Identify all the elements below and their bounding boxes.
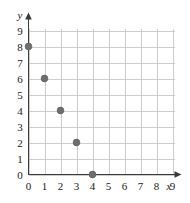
x-tick-label: 2 (58, 180, 64, 192)
x-tick-label: 5 (106, 180, 112, 192)
y-tick-label: 3 (17, 121, 23, 133)
y-axis-arrowhead (25, 13, 32, 20)
horizontal-gridlines (29, 31, 175, 175)
x-axis-tick-labels: 0123456789 (26, 180, 176, 192)
y-tick-label: 0 (17, 169, 23, 181)
x-axis-arrowhead (175, 171, 182, 178)
y-tick-label: 8 (17, 41, 23, 53)
y-tick-label: 1 (17, 153, 23, 165)
x-tick-label: 0 (26, 180, 32, 192)
data-point (73, 139, 80, 146)
x-tick-label: 8 (154, 180, 160, 192)
x-tick-label: 1 (42, 180, 48, 192)
data-point (41, 75, 48, 82)
y-tick-label: 7 (17, 57, 23, 69)
y-tick-label: 6 (17, 73, 23, 85)
y-tick-label: 4 (17, 105, 23, 117)
y-axis-label: y (17, 9, 23, 21)
data-point (25, 43, 32, 50)
x-tick-label: 3 (74, 180, 80, 192)
y-tick-label: 9 (17, 25, 23, 37)
scatter-plot-figure: 0123456789 0123456789 x y (0, 0, 190, 203)
x-tick-label: 7 (138, 180, 144, 192)
y-tick-label: 5 (17, 89, 23, 101)
coordinate-plane: 0123456789 0123456789 x y (0, 0, 190, 203)
x-axis-label: x (166, 180, 172, 192)
x-tick-label: 6 (122, 180, 128, 192)
y-axis-tick-labels: 0123456789 (17, 25, 23, 181)
vertical-gridlines (29, 29, 173, 175)
x-tick-label: 4 (90, 180, 96, 192)
data-point (57, 107, 64, 114)
data-point (89, 171, 96, 178)
y-tick-label: 2 (17, 137, 23, 149)
